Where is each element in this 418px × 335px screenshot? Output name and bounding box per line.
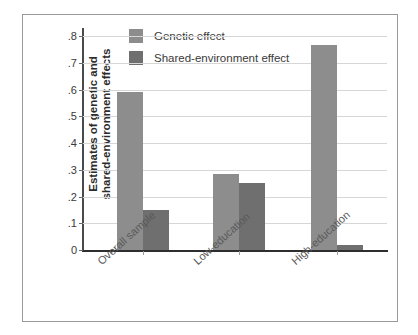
y-tick-mark [79, 197, 83, 198]
y-tick-mark [79, 223, 83, 224]
y-tick-mark [79, 143, 83, 144]
y-tick-mark [79, 170, 83, 171]
chart-figure-frame: Estimates of genetic and shared-environm… [22, 14, 398, 322]
y-tick-mark [79, 116, 83, 117]
bar-shared-2 [337, 245, 363, 250]
y-tick-mark [79, 63, 83, 64]
x-tick-mark [143, 251, 144, 255]
y-tick-mark [79, 90, 83, 91]
y-tick-mark [79, 250, 83, 251]
plot-area: 0.1.2.3.4.5.6.7.8 Overall sampleLow-educ… [83, 36, 387, 250]
gridline [83, 63, 387, 64]
x-tick-mark [337, 251, 338, 255]
x-axis-line [82, 250, 388, 252]
gridline [83, 36, 387, 37]
gridline [83, 90, 387, 91]
y-tick-mark [79, 36, 83, 37]
x-tick-mark [239, 251, 240, 255]
